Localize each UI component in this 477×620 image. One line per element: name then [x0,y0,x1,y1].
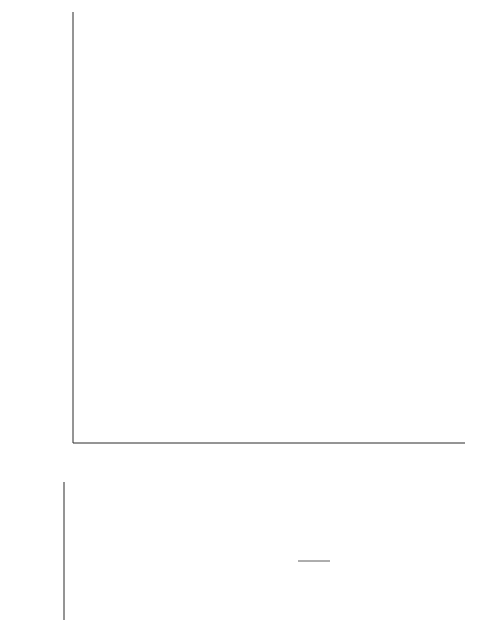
population-projection-chart [0,0,477,470]
figure-container [0,0,477,620]
monthly-paroles-chart [0,472,477,620]
